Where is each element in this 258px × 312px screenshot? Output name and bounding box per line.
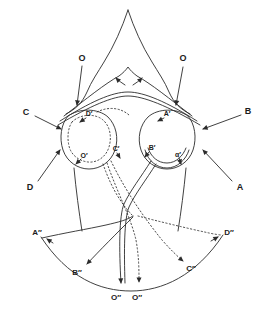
label-c: C [23,107,30,117]
label-b-prime: B′ [149,144,156,151]
head-outline-left [66,10,128,114]
label-c-prime: C′ [113,145,120,152]
embryo-fate-map-figure: O O C B D A D′ A′ C′ B′ O′ α′ A″ B″ O″ O… [0,0,258,312]
label-d-dblprime: D″ [224,228,234,237]
collar-upper-fold [64,67,192,116]
arrow-c [35,116,61,129]
right-vesicle-inner-arc-1 [145,150,189,168]
pointer-a-prime [158,118,164,121]
label-d: D [27,182,34,192]
label-o-dblprime-right: O″ [132,293,142,302]
fold-movement-arrow-right [133,78,142,85]
label-o-left: O [78,53,85,63]
arrow-o-right [176,67,183,105]
label-o-dblprime-left: O″ [111,293,121,302]
arrow-a [203,150,232,181]
crescent-tip-pointer-left [47,239,53,243]
arrow-b [203,115,241,129]
label-d-prime: D′ [86,110,93,117]
crescent-tip-pointer-right [211,237,218,241]
label-a-dblprime: A″ [32,228,42,237]
label-a-prime: A′ [164,110,171,117]
left-leg-line [74,168,82,231]
label-o-prime-left: O′ [80,152,87,159]
arrow-o-left [77,66,82,105]
collar-dotted-arc [97,108,129,115]
arrow-d [38,150,60,181]
left-vesicle-dotted-ring [68,115,110,162]
diagram-canvas: O O C B D A D′ A′ C′ B′ O′ α′ A″ B″ O″ O… [0,0,258,312]
label-c-dblprime: C″ [186,264,196,273]
label-b: B [245,106,252,116]
pointer-c-prime [117,153,120,158]
pointer-o-prime-left [76,159,81,164]
label-o-prime-right: α′ [175,151,181,158]
label-b-dblprime: B″ [72,268,82,277]
fold-movement-arrow-left [116,78,125,85]
right-vesicle-outline [139,110,195,169]
right-leg-line [178,168,186,231]
label-a: A [237,182,244,192]
label-o-right: O [179,53,186,63]
pointer-d-prime [80,118,86,122]
stalk-line-2 [124,164,156,283]
crescent-main-arc [41,235,223,291]
dotted-strand-to-o-dblprime [107,163,139,282]
